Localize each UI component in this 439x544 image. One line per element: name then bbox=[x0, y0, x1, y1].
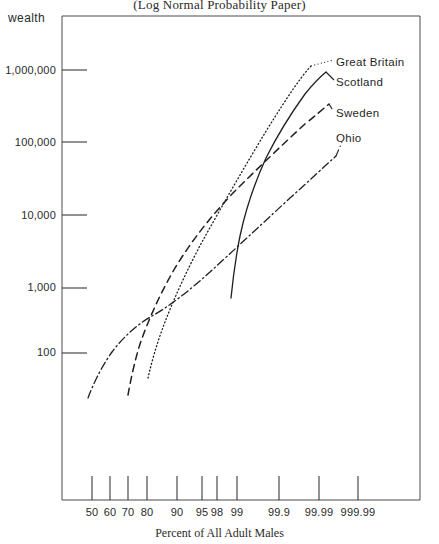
series-line-ohio bbox=[88, 156, 336, 398]
leader-sweden bbox=[329, 104, 334, 112]
x-axis-ticks bbox=[92, 476, 358, 500]
series-line-great-britain bbox=[148, 66, 311, 378]
series-line-sweden bbox=[128, 104, 329, 395]
chart-figure: (Log Normal Probability Paper) wealth 1,… bbox=[0, 0, 439, 544]
label-leaders bbox=[311, 60, 342, 156]
leader-great-britain bbox=[311, 60, 333, 66]
plot-frame bbox=[62, 16, 420, 500]
chart-plot-area bbox=[0, 0, 439, 544]
leader-scotland bbox=[326, 72, 334, 80]
series-line-scotland bbox=[231, 72, 326, 298]
x-axis-title: Percent of All Adult Males bbox=[0, 526, 439, 541]
leader-ohio bbox=[336, 142, 342, 156]
y-axis-ticks bbox=[62, 70, 87, 353]
